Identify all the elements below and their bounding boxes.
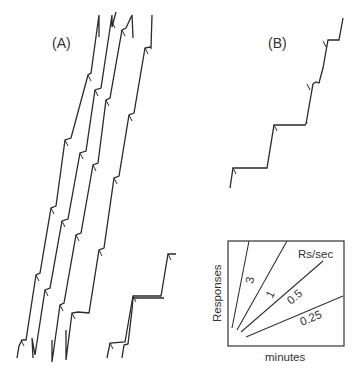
rate-line-1 [237, 241, 287, 330]
record-a4 [66, 15, 152, 360]
record-a2 [32, 12, 116, 358]
panel-b-label: (B) [268, 35, 287, 51]
reinforcement-marks [21, 22, 326, 349]
rate-line-3 [232, 241, 249, 328]
record-a5 [107, 254, 176, 358]
legend-title: Rs/sec [298, 248, 333, 260]
x-axis-label: minutes [265, 351, 306, 363]
y-axis-label: Responses [211, 264, 223, 322]
rate-label-0.5: 0.5 [285, 287, 305, 306]
rate-label-0.25: 0.25 [298, 308, 323, 328]
record-a1 [17, 15, 99, 358]
panel-a-label: (A) [52, 35, 71, 51]
rate-inset: 3 1 0.5 0.25 Rs/sec Responses minutes [211, 241, 344, 363]
rate-label-1: 1 [263, 288, 277, 300]
cumulative-record-diagram: (A) (B) 3 1 0.5 0.25 Rs/sec Responses mi… [0, 0, 359, 375]
record-b-lower [122, 298, 164, 358]
rate-label-3: 3 [243, 276, 256, 285]
panel-a-records [17, 12, 176, 362]
record-a3 [52, 15, 133, 362]
